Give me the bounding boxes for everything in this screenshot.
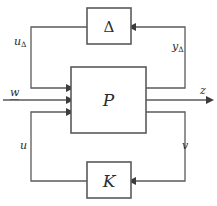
signal-v-base: v	[182, 139, 188, 152]
block-diagram: Δ P K uΔ yΔ w z u v	[0, 0, 217, 206]
signal-label-y-delta: yΔ	[172, 41, 184, 54]
signal-u-delta-subscript: Δ	[21, 40, 26, 49]
signal-y-delta-subscript: Δ	[178, 45, 183, 54]
signal-z-base: z	[200, 84, 206, 97]
signal-label-u: u	[20, 140, 27, 151]
block-group: Δ P K	[71, 8, 146, 198]
signal-label-u-delta: uΔ	[14, 36, 27, 49]
signal-w-base: w	[10, 86, 19, 99]
block-controller-label: K	[102, 171, 117, 191]
block-delta-label: Δ	[104, 18, 115, 36]
signal-label-v: v	[182, 140, 188, 151]
signal-label-z: z	[200, 85, 206, 96]
diagram-canvas: Δ P K	[0, 0, 217, 206]
block-plant-label: P	[102, 90, 115, 110]
signal-u-base: u	[20, 139, 27, 152]
arrowhead-z-out	[206, 96, 214, 104]
signal-label-w: w	[10, 87, 19, 100]
